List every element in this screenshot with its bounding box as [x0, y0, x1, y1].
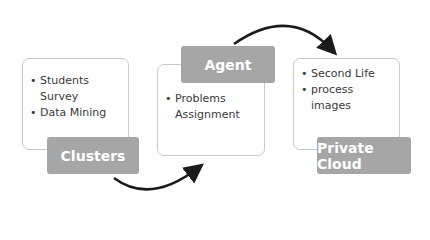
- list-item: Problems Assignment: [162, 91, 235, 123]
- private-cloud-label: Private Cloud: [317, 137, 411, 174]
- list-item: Data Mining: [27, 105, 124, 121]
- private-cloud-item-list: Second Life process images: [298, 66, 395, 114]
- list-item: process images: [298, 82, 395, 114]
- clusters-label: Clusters: [47, 137, 139, 174]
- list-item: Students Survey: [27, 73, 124, 105]
- clusters-item-list: Students Survey Data Mining: [27, 73, 124, 121]
- agent-item-list: Problems Assignment: [162, 91, 260, 123]
- list-item: Second Life: [298, 66, 395, 82]
- agent-label: Agent: [181, 46, 275, 83]
